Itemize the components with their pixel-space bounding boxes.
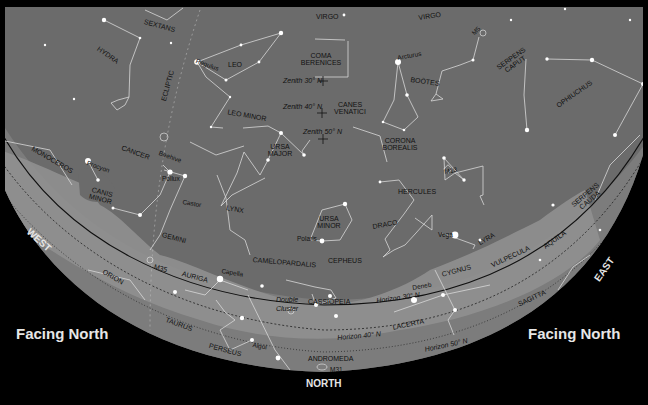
star-label: Pollux: [162, 176, 180, 183]
zenith-30-label: Zenith 30° N: [283, 77, 322, 84]
constellation-label: URSA MAJOR: [258, 143, 302, 157]
star-label: Polaris: [297, 236, 317, 243]
constellation-label: VIRGO: [316, 13, 339, 20]
constellation-label: COMA BERENICES: [299, 52, 343, 66]
zenith-40-label: Zenith 40° N: [283, 103, 322, 110]
zenith-50-label: Zenith 50° N: [303, 128, 342, 135]
constellation-label: LEO: [228, 61, 242, 68]
constellation-label: CASSIOPEIA: [308, 298, 350, 305]
constellation-label: HERCULES: [398, 188, 436, 195]
top-border: [0, 0, 648, 7]
constellation-label: CANES VENATICI: [328, 101, 372, 115]
north-label: NORTH: [306, 378, 342, 389]
constellation-label: URSA MINOR: [307, 215, 351, 229]
italic-label: Double: [276, 296, 298, 303]
star-label: Vega: [438, 232, 453, 239]
constellation-label: CEPHEUS: [328, 257, 362, 264]
facing-north-label-left: Facing North: [16, 325, 109, 342]
facing-north-label-right: Facing North: [528, 325, 621, 342]
star-label: M31: [330, 367, 343, 374]
constellation-label: ANDROMEDA: [308, 355, 354, 362]
constellation-label: CORONA BOREALIS: [378, 137, 422, 151]
italic-label: Cluster: [276, 305, 298, 312]
